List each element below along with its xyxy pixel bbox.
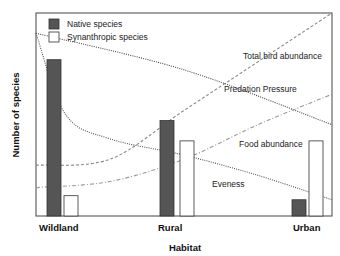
bar-synanthropic-species-wildland (64, 196, 78, 216)
annotation-eveness: Eveness (212, 179, 245, 189)
annotation-food-abundance: Food abundance (239, 139, 303, 149)
annotation-predation-pressure: Predation Pressure (224, 84, 297, 94)
legend-swatch-synanthropic (49, 32, 59, 42)
legend-swatch-native (49, 19, 59, 29)
bar-synanthropic-species-rural (180, 141, 194, 216)
bar-native-species-rural (160, 121, 174, 216)
y-axis-label: Number of species (10, 73, 21, 158)
chart: Native species Synanthropic species Tota… (0, 0, 340, 256)
x-tick-wildland: Wildland (39, 222, 79, 233)
bar-native-species-wildland (47, 60, 61, 216)
x-tick-rural: Rural (158, 222, 182, 233)
bar-native-species-urban (292, 200, 306, 216)
legend-label-synanthropic: Synanthropic species (67, 32, 148, 42)
x-axis-label: Habitat (169, 242, 202, 253)
x-tick-urban: Urban (293, 222, 321, 233)
bar-synanthropic-species-urban (309, 141, 323, 216)
legend-label-native: Native species (67, 19, 122, 29)
annotation-total-bird-abundance: Total bird abundance (243, 51, 322, 61)
